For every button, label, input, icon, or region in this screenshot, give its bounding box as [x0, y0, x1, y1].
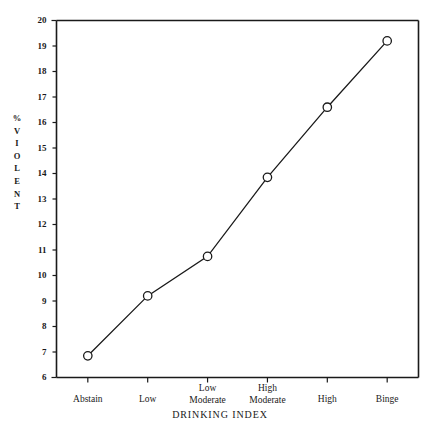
x-tick-label-binge: Binge: [344, 394, 430, 406]
y-tick-label-15: 15: [25, 144, 47, 153]
y-tick-label-9: 9: [25, 297, 47, 306]
y-tick-label-18: 18: [25, 67, 47, 76]
y-tick-label-10: 10: [25, 271, 47, 280]
data-point-high-moderate: [263, 173, 271, 181]
y-tick-label-7: 7: [25, 348, 47, 357]
y-tick-label-16: 16: [25, 118, 47, 127]
y-tick-label-11: 11: [25, 246, 47, 255]
y-tick-label-20: 20: [25, 16, 47, 25]
y-tick-label-8: 8: [25, 322, 47, 331]
y-tick-label-12: 12: [25, 220, 47, 229]
chart-figure: %VIOLENT DRINKING INDEX 6789101112131415…: [0, 0, 440, 431]
y-tick-label-6: 6: [25, 373, 47, 382]
plot-area: [0, 0, 440, 431]
y-tick-label-13: 13: [25, 195, 47, 204]
y-tick-label-14: 14: [25, 169, 47, 178]
data-point-abstain: [84, 352, 92, 360]
y-tick-label-17: 17: [25, 93, 47, 102]
y-tick-label-19: 19: [25, 42, 47, 51]
data-point-low-moderate: [203, 252, 211, 260]
data-point-binge: [383, 37, 391, 45]
data-point-high: [323, 103, 331, 111]
data-series-line: [88, 41, 387, 356]
data-point-low: [143, 292, 151, 300]
